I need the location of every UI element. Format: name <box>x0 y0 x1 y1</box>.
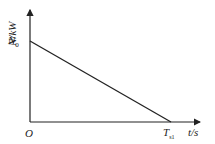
ts-sub: s1 <box>169 134 174 140</box>
x-axis-label: t/s <box>188 126 198 138</box>
power-decline-line <box>30 41 171 122</box>
chart-plot <box>0 0 215 144</box>
n0-tick-label: N0 <box>8 34 19 49</box>
ts1-tick-label: Ts1 <box>163 126 174 140</box>
origin-label: O <box>25 127 33 139</box>
n0-sub: 0 <box>15 41 19 49</box>
